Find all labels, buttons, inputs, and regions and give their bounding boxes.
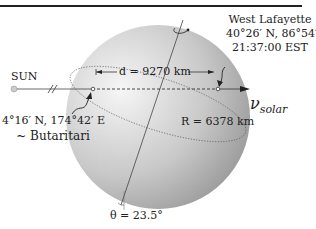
neutrino-subscript: solar [260, 103, 288, 116]
exit-coords: 4°16′ N, 174°42′ E [2, 115, 104, 127]
detector-coords: 40°26′ N, 86°54′ W [226, 28, 314, 40]
exit-point-label: 4°16′ N, 174°42′ E ~ Butaritari [2, 115, 104, 142]
neutrino-symbol: ν [250, 94, 260, 113]
tilt-label: θ = 23.5° [110, 210, 163, 222]
detector-time: 21:37:00 EST [226, 42, 314, 54]
detector-point [216, 87, 220, 91]
distance-label: d = 9270 km [119, 66, 191, 78]
sun-icon [11, 86, 17, 92]
neutrino-label: νsolar [250, 96, 287, 118]
detector-location-label: West Lafayette 40°26′ N, 86°54′ W 21:37:… [226, 14, 314, 54]
detector-name: West Lafayette [226, 14, 314, 26]
sun-label: SUN [11, 71, 37, 83]
entry-point [91, 87, 95, 91]
exit-name: ~ Butaritari [2, 130, 104, 142]
radius-label: R = 6378 km [181, 116, 254, 128]
